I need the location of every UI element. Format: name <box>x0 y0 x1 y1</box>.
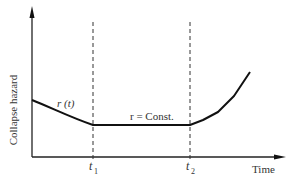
hazard-diagram: r (t) r = Const. t 1 t 2 Time Collapse h… <box>0 0 298 181</box>
x-axis-arrow-icon <box>274 155 286 160</box>
y-axis-arrow-icon <box>30 6 35 18</box>
t2-subscript: 2 <box>191 167 195 176</box>
const-label: r = Const. <box>130 110 174 122</box>
x-axis-label: Time <box>252 163 275 175</box>
t1-label: t <box>89 159 93 173</box>
t2-label: t <box>186 159 190 173</box>
y-axis-label: Collapse hazard <box>7 74 19 145</box>
t1-subscript: 1 <box>94 167 98 176</box>
rt-label: r (t) <box>57 97 75 110</box>
